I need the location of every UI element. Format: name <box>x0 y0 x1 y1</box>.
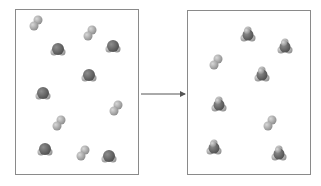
molecule-bent <box>36 87 51 100</box>
molecule-bent <box>82 69 97 82</box>
product-molecules <box>207 27 293 161</box>
reaction-diagram <box>0 0 321 186</box>
molecule-bent <box>51 43 66 56</box>
molecule-diatomic <box>30 16 43 31</box>
molecule-diatomic <box>110 101 123 116</box>
molecule-diatomic <box>84 26 97 41</box>
reactant-molecules <box>30 16 123 163</box>
molecule-bent <box>106 40 121 53</box>
molecule-tetra <box>207 140 222 155</box>
molecule-tetra <box>255 67 270 82</box>
molecule-tetra <box>278 39 293 54</box>
molecule-diatomic <box>264 116 277 131</box>
molecule-bent <box>102 150 117 163</box>
molecule-diatomic <box>77 146 90 161</box>
molecule-diatomic <box>53 116 66 131</box>
molecule-bent <box>38 143 53 156</box>
molecule-diatomic <box>210 55 223 70</box>
molecule-tetra <box>272 146 287 161</box>
molecule-tetra <box>212 97 227 112</box>
molecule-tetra <box>241 27 256 42</box>
